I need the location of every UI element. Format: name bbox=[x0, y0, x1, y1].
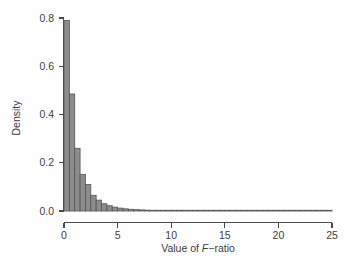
histogram-bar bbox=[144, 210, 149, 211]
histogram-bar bbox=[139, 210, 144, 211]
x-tick-label: 10 bbox=[165, 229, 177, 241]
histogram-bar bbox=[230, 210, 235, 211]
histogram-bar bbox=[107, 206, 112, 211]
histogram-bar bbox=[209, 210, 214, 211]
histogram-bar bbox=[96, 200, 101, 211]
y-tick-label: 0.0 bbox=[39, 205, 54, 217]
y-tick-label: 0.8 bbox=[39, 12, 54, 24]
histogram-bar bbox=[321, 210, 326, 211]
x-tick-label: 15 bbox=[219, 229, 231, 241]
histogram-bar bbox=[177, 210, 182, 211]
x-tick-label: 25 bbox=[326, 229, 338, 241]
histogram-bar bbox=[300, 210, 305, 211]
histogram-bar bbox=[289, 210, 294, 211]
histogram-bar bbox=[85, 184, 90, 211]
histogram-bar bbox=[241, 210, 246, 211]
y-tick-label: 0.4 bbox=[39, 108, 54, 120]
histogram-bar bbox=[102, 204, 107, 211]
histogram-bar bbox=[294, 210, 299, 211]
histogram-bar bbox=[91, 195, 96, 211]
histogram-bar bbox=[214, 210, 219, 211]
histogram-bar bbox=[225, 210, 230, 211]
histogram-bar bbox=[203, 210, 208, 211]
histogram-bar bbox=[75, 148, 80, 211]
histogram-bar bbox=[327, 210, 332, 211]
histogram-bar bbox=[219, 210, 224, 211]
x-axis-title: Value of F−ratio bbox=[161, 242, 235, 254]
histogram-bar bbox=[118, 208, 123, 211]
histogram-bar bbox=[252, 210, 257, 211]
histogram-bar bbox=[155, 210, 160, 211]
histogram-bar bbox=[193, 210, 198, 211]
chart-figure: 0.00.20.40.60.8 0510152025 Value of F−ra… bbox=[0, 0, 350, 265]
histogram-bar bbox=[268, 210, 273, 211]
y-tick-label: 0.2 bbox=[39, 156, 54, 168]
histogram-bar bbox=[316, 210, 321, 211]
y-axis-title: Density bbox=[10, 100, 22, 136]
histogram-bar bbox=[166, 210, 171, 211]
histogram-bar bbox=[262, 210, 267, 211]
histogram-bar bbox=[257, 210, 262, 211]
histogram-bar bbox=[69, 94, 74, 211]
histogram-bar bbox=[128, 209, 133, 211]
histogram-plot: 0.00.20.40.60.8 0510152025 Value of F−ra… bbox=[0, 0, 350, 265]
histogram-bar bbox=[311, 210, 316, 211]
plot-background bbox=[0, 0, 350, 265]
histogram-bar bbox=[150, 210, 155, 211]
histogram-bar bbox=[112, 207, 117, 211]
x-tick-label: 5 bbox=[115, 229, 121, 241]
histogram-bar bbox=[236, 210, 241, 211]
x-tick-label: 0 bbox=[61, 229, 67, 241]
histogram-bar bbox=[278, 210, 283, 211]
histogram-bar bbox=[305, 210, 310, 211]
histogram-bar bbox=[160, 210, 165, 211]
histogram-bar bbox=[182, 210, 187, 211]
x-tick-label: 20 bbox=[273, 229, 285, 241]
histogram-bar bbox=[284, 210, 289, 211]
histogram-bar bbox=[134, 210, 139, 211]
histogram-bar bbox=[187, 210, 192, 211]
histogram-bar bbox=[273, 210, 278, 211]
histogram-bar bbox=[198, 210, 203, 211]
histogram-bar bbox=[80, 174, 85, 211]
histogram-bar bbox=[246, 210, 251, 211]
histogram-bar bbox=[123, 209, 128, 211]
y-tick-label: 0.6 bbox=[39, 60, 54, 72]
histogram-bar bbox=[171, 210, 176, 211]
histogram-bar bbox=[64, 20, 69, 211]
